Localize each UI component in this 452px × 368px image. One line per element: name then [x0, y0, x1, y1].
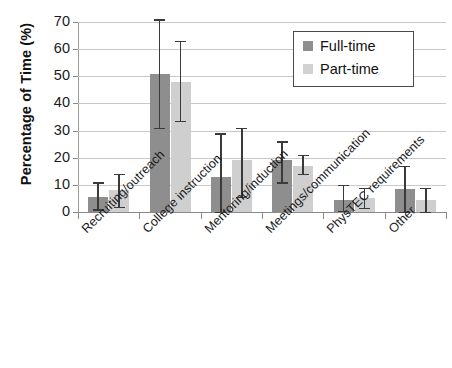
- x-tick-mark: [385, 212, 386, 219]
- y-tick-mark: [73, 22, 78, 23]
- x-tick-mark: [446, 212, 447, 219]
- y-tick-label: 60: [30, 41, 70, 56]
- y-tick-label: 50: [30, 68, 70, 83]
- y-tick-label: 40: [30, 95, 70, 110]
- error-bar-cap-upper: [298, 155, 309, 156]
- legend-label-part-time: Part-time: [320, 62, 379, 77]
- y-tick-label: 0: [30, 204, 70, 219]
- error-bar-cap-upper: [93, 182, 104, 183]
- y-tick-mark: [73, 103, 78, 104]
- y-tick-mark: [73, 76, 78, 77]
- legend-label-full-time: Full-time: [320, 39, 376, 54]
- y-tick-label: 70: [30, 14, 70, 29]
- full-time-swatch-icon: [303, 41, 313, 51]
- error-bar-cap-lower: [298, 174, 309, 175]
- error-bar-cap-upper: [338, 185, 349, 186]
- error-bar: [302, 155, 303, 174]
- error-bar: [425, 188, 426, 212]
- x-tick-mark: [201, 212, 202, 219]
- error-bar-cap-upper: [420, 188, 431, 189]
- x-tick-mark: [78, 212, 79, 219]
- x-tick-mark: [139, 212, 140, 219]
- y-tick-mark: [73, 49, 78, 50]
- y-tick-mark: [73, 158, 78, 159]
- error-bar-cap-lower: [420, 212, 431, 213]
- x-tick-mark: [262, 212, 263, 219]
- error-bar-cap-lower: [277, 182, 288, 183]
- error-bar: [220, 133, 221, 212]
- error-bar: [180, 41, 181, 121]
- bar-chart: Percentage of Time (%) 010203040506070 R…: [0, 0, 452, 368]
- error-bar: [159, 19, 160, 128]
- error-bar-cap-upper: [277, 141, 288, 142]
- y-tick-mark: [73, 185, 78, 186]
- x-tick-mark: [323, 212, 324, 219]
- error-bar-cap-upper: [154, 19, 165, 20]
- gridline: [78, 103, 446, 104]
- y-tick-label: 10: [30, 177, 70, 192]
- legend: Full-time Part-time: [293, 31, 414, 87]
- legend-item-full-time: Full-time: [303, 39, 376, 54]
- gridline: [78, 131, 446, 132]
- error-bar-cap-upper: [215, 133, 226, 134]
- part-time-swatch-icon: [303, 64, 313, 74]
- error-bar-cap-upper: [114, 174, 125, 175]
- gridline: [78, 22, 446, 23]
- legend-item-part-time: Part-time: [303, 62, 379, 77]
- y-tick-label: 30: [30, 123, 70, 138]
- error-bar-cap-lower: [154, 128, 165, 129]
- error-bar-cap-upper: [175, 41, 186, 42]
- error-bar-cap-upper: [236, 128, 247, 129]
- error-bar-cap-lower: [175, 121, 186, 122]
- y-tick-mark: [73, 131, 78, 132]
- y-tick-label: 20: [30, 150, 70, 165]
